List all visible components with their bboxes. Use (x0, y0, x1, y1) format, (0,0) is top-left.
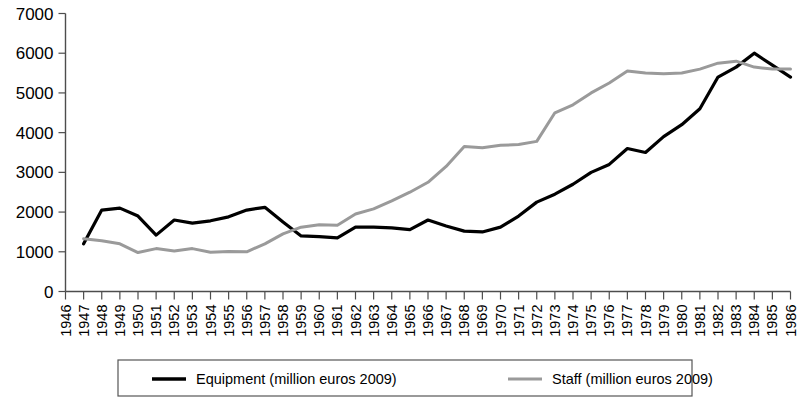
series-line-equipment (84, 53, 791, 244)
x-tick-label: 1950 (130, 305, 146, 337)
x-tick-label: 1965 (402, 305, 418, 337)
y-tick-label: 7000 (16, 5, 54, 24)
x-tick-label: 1979 (656, 305, 672, 337)
x-tick-label: 1947 (76, 305, 92, 337)
y-axis-tick-labels: 01000200030004000500060007000 (16, 5, 54, 302)
x-tick-label: 1957 (257, 305, 273, 337)
x-tick-label: 1959 (293, 305, 309, 337)
x-tick-label: 1968 (456, 305, 472, 337)
x-tick-label: 1976 (601, 305, 617, 337)
x-tick-label: 1986 (783, 305, 799, 337)
x-tick-label: 1953 (184, 305, 200, 337)
x-tick-label: 1985 (764, 305, 780, 337)
y-tick-label: 2000 (16, 203, 54, 222)
y-tick-label: 6000 (16, 44, 54, 63)
x-axis-tick-labels: 1946194719481949195019511952195319541955… (58, 305, 799, 337)
y-tick-label: 1000 (16, 243, 54, 262)
x-tick-label: 1963 (366, 305, 382, 337)
x-tick-label: 1970 (493, 305, 509, 337)
x-tick-label: 1974 (565, 305, 581, 337)
x-tick-label: 1966 (420, 305, 436, 337)
x-tick-label: 1978 (638, 305, 654, 337)
x-tick-label: 1949 (112, 305, 128, 337)
x-tick-label: 1960 (311, 305, 327, 337)
x-tick-label: 1969 (474, 305, 490, 337)
x-tick-label: 1958 (275, 305, 291, 337)
legend-label-equipment: Equipment (million euros 2009) (196, 371, 397, 387)
x-tick-label: 1956 (239, 305, 255, 337)
x-tick-label: 1984 (746, 305, 762, 337)
legend: Equipment (million euros 2009)Staff (mil… (152, 371, 713, 387)
x-tick-label: 1951 (148, 305, 164, 337)
y-tick-label: 5000 (16, 84, 54, 103)
x-tick-label: 1977 (619, 305, 635, 337)
x-tick-label: 1946 (58, 305, 74, 337)
x-tick-label: 1971 (511, 305, 527, 337)
x-tick-label: 1961 (329, 305, 345, 337)
x-tick-label: 1954 (203, 305, 219, 337)
x-tick-label: 1982 (710, 305, 726, 337)
y-tick-label: 4000 (16, 124, 54, 143)
x-tick-label: 1967 (438, 305, 454, 337)
x-axis-tick-marks (66, 292, 791, 300)
data-series-group (84, 53, 791, 252)
x-tick-label: 1980 (674, 305, 690, 337)
line-chart: 01000200030004000500060007000 1946194719… (0, 0, 811, 398)
chart-figure: 01000200030004000500060007000 1946194719… (0, 0, 811, 398)
x-tick-label: 1983 (728, 305, 744, 337)
y-tick-label: 3000 (16, 163, 54, 182)
legend-label-staff: Staff (million euros 2009) (552, 371, 713, 387)
x-tick-label: 1964 (384, 305, 400, 337)
x-tick-label: 1962 (348, 305, 364, 337)
x-tick-label: 1972 (529, 305, 545, 337)
x-tick-label: 1973 (547, 305, 563, 337)
x-tick-label: 1975 (583, 305, 599, 337)
x-tick-label: 1952 (166, 305, 182, 337)
x-tick-label: 1981 (692, 305, 708, 337)
y-tick-label: 0 (44, 283, 53, 302)
y-axis-tick-marks (59, 14, 66, 292)
x-tick-label: 1948 (94, 305, 110, 337)
x-tick-label: 1955 (221, 305, 237, 337)
